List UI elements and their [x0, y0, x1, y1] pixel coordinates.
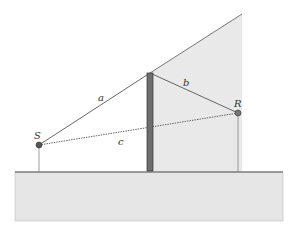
- path-a-label: a: [98, 92, 104, 103]
- path-b-label: b: [183, 77, 189, 88]
- source-label: S: [34, 130, 41, 141]
- receiver-point: [235, 110, 241, 116]
- barrier: [147, 73, 153, 171]
- path-a: [39, 73, 150, 145]
- shadow-zone: [150, 14, 242, 172]
- path-c-label: c: [118, 136, 124, 147]
- diagram-canvas: S R a b c: [0, 0, 297, 233]
- source-point: [36, 142, 42, 148]
- receiver-label: R: [233, 98, 242, 109]
- ground: [15, 172, 283, 221]
